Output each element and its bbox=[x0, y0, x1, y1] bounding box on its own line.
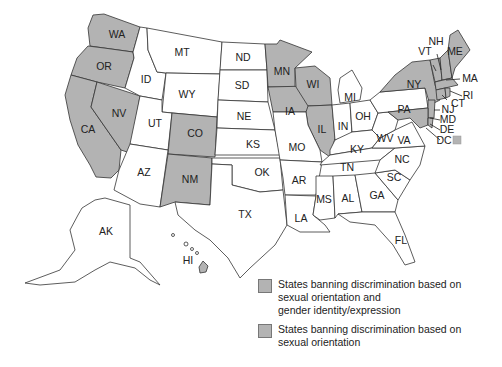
label-ne: NE bbox=[237, 110, 252, 122]
label-pa: PA bbox=[397, 103, 410, 115]
label-ky: KY bbox=[350, 143, 364, 155]
label-mo: MO bbox=[289, 141, 306, 153]
label-nd: ND bbox=[235, 51, 251, 63]
label-dc: DC bbox=[436, 134, 452, 146]
label-la: LA bbox=[295, 212, 308, 224]
label-ny: NY bbox=[407, 78, 422, 90]
label-me: ME bbox=[447, 45, 463, 57]
dc-swatch bbox=[453, 136, 461, 144]
label-ut: UT bbox=[148, 117, 163, 129]
label-nm: NM bbox=[182, 173, 198, 185]
label-wv: WV bbox=[377, 132, 394, 144]
label-sd: SD bbox=[235, 79, 250, 91]
label-tx: TX bbox=[238, 208, 251, 220]
label-wi: WI bbox=[307, 78, 320, 90]
label-al: AL bbox=[342, 192, 355, 204]
label-mt: MT bbox=[174, 46, 190, 58]
legend: States banning discrimination based on s… bbox=[258, 278, 498, 355]
label-ak: AK bbox=[99, 225, 113, 237]
label-ks: KS bbox=[246, 138, 260, 150]
label-in: IN bbox=[338, 120, 349, 132]
label-nh: NH bbox=[428, 35, 443, 47]
legend-swatch bbox=[258, 279, 272, 293]
state-de bbox=[428, 118, 433, 128]
label-nv: NV bbox=[112, 107, 127, 119]
label-hi: HI bbox=[183, 254, 194, 266]
state-ak bbox=[25, 198, 160, 285]
label-co: CO bbox=[187, 127, 203, 139]
label-ok: OK bbox=[254, 166, 269, 178]
label-tn: TN bbox=[340, 161, 354, 173]
label-nc: NC bbox=[394, 153, 410, 165]
label-va: VA bbox=[397, 134, 410, 146]
legend-label: States banning discrimination based on s… bbox=[278, 278, 461, 317]
label-ga: GA bbox=[369, 189, 384, 201]
label-ms: MS bbox=[316, 193, 332, 205]
label-mn: MN bbox=[274, 65, 290, 77]
label-oh: OH bbox=[355, 110, 371, 122]
legend-label: States banning discrimination based on s… bbox=[278, 323, 461, 349]
label-or: OR bbox=[96, 60, 112, 72]
state-nj bbox=[428, 100, 435, 118]
label-az: AZ bbox=[137, 166, 151, 178]
label-ca: CA bbox=[81, 123, 96, 135]
legend-item-orientation-only: States banning discrimination based on s… bbox=[258, 323, 498, 349]
label-ar: AR bbox=[292, 174, 307, 186]
legend-swatch bbox=[258, 324, 272, 338]
label-ia: IA bbox=[285, 105, 295, 117]
state-ri bbox=[445, 88, 450, 98]
state-ct bbox=[436, 88, 446, 100]
label-fl: FL bbox=[395, 234, 407, 246]
label-wy: WY bbox=[179, 88, 196, 100]
label-id: ID bbox=[141, 73, 152, 85]
label-wa: WA bbox=[109, 28, 126, 40]
label-il: IL bbox=[318, 123, 327, 135]
label-ma: MA bbox=[462, 72, 478, 84]
legend-item-orientation-and-gender-identity: States banning discrimination based on s… bbox=[258, 278, 498, 317]
label-sc: SC bbox=[387, 171, 402, 183]
label-mi: MI bbox=[344, 91, 356, 103]
